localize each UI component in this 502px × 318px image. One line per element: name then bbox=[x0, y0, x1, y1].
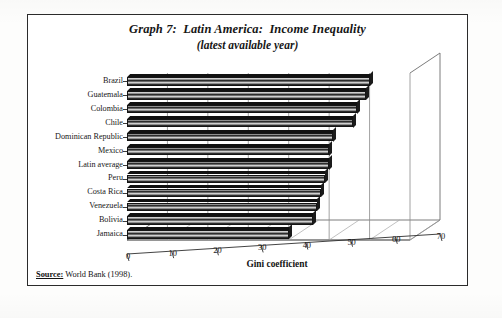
bar-guatemala bbox=[127, 88, 369, 100]
category-label-chile: Chile bbox=[31, 118, 123, 127]
category-label-brazil: Brazil bbox=[31, 76, 123, 85]
category-label-jamaica: Jamaica bbox=[31, 229, 123, 238]
category-tick bbox=[123, 137, 127, 138]
category-tick bbox=[123, 151, 127, 152]
bar-end-face bbox=[329, 154, 332, 169]
bar-body bbox=[127, 189, 321, 197]
bar-body bbox=[127, 105, 357, 113]
category-tick bbox=[123, 221, 127, 222]
category-tick bbox=[123, 179, 127, 180]
category-label-latin-average: Latin average bbox=[31, 160, 123, 169]
bar-end-face bbox=[333, 127, 336, 142]
category-label-colombia: Colombia bbox=[31, 104, 123, 113]
category-tick bbox=[123, 207, 127, 208]
bar-end-face bbox=[317, 196, 320, 211]
figure-frame: Graph 7: Latin America: Income Inequalit… bbox=[27, 14, 468, 286]
bar-body bbox=[127, 91, 366, 99]
x-tick-label-70: 70 bbox=[437, 232, 445, 241]
category-tick bbox=[123, 123, 127, 124]
category-tick bbox=[123, 235, 127, 236]
category-tick bbox=[123, 193, 127, 194]
bar-colombia bbox=[127, 102, 361, 114]
bar-body bbox=[127, 216, 313, 224]
bar-end-face bbox=[353, 113, 356, 128]
bar-body bbox=[127, 77, 370, 85]
x-tick-label-10: 10 bbox=[169, 249, 177, 258]
category-tick bbox=[123, 81, 127, 82]
x-tick-label-40: 40 bbox=[303, 241, 311, 250]
category-tick bbox=[123, 109, 127, 110]
bar-jamaica bbox=[127, 227, 292, 239]
x-tick-label-20: 20 bbox=[213, 246, 221, 255]
bar-costa-rica bbox=[127, 185, 324, 197]
bar-body bbox=[127, 147, 329, 155]
bar-end-face bbox=[357, 99, 360, 114]
category-label-guatemala: Guatemala bbox=[31, 90, 123, 99]
bar-latin-average bbox=[127, 158, 332, 170]
category-axis-labels: BrazilGuatemalaColombiaChileDominican Re… bbox=[31, 73, 123, 240]
bar-end-face bbox=[289, 224, 292, 239]
category-tick bbox=[123, 165, 127, 166]
bar-bolivia bbox=[127, 213, 316, 225]
bar-end-face bbox=[366, 85, 369, 100]
bar-body bbox=[127, 119, 353, 127]
bar-end-face bbox=[329, 140, 332, 155]
source-label: Source: bbox=[36, 270, 63, 279]
bar-dominican-republic bbox=[127, 130, 336, 142]
category-label-costa-rica: Costa Rica bbox=[31, 187, 123, 196]
source-note: Source: World Bank (1998). bbox=[36, 270, 132, 279]
chart-title-block: Graph 7: Latin America: Income Inequalit… bbox=[28, 22, 467, 51]
x-tick-label-60: 60 bbox=[392, 235, 400, 244]
category-tick bbox=[123, 95, 127, 96]
category-label-dominican-republic: Dominican Republic bbox=[31, 132, 123, 141]
bar-end-face bbox=[321, 182, 324, 197]
bar-body bbox=[127, 161, 329, 169]
x-axis-title: Gini coefficient bbox=[127, 259, 427, 269]
x-tick-label-30: 30 bbox=[258, 243, 266, 252]
chart-title: Graph 7: Latin America: Income Inequalit… bbox=[28, 22, 467, 37]
category-label-peru: Peru bbox=[31, 173, 123, 182]
bars-group bbox=[127, 73, 467, 240]
bar-body bbox=[127, 175, 325, 183]
bar-body bbox=[127, 230, 289, 238]
bar-body bbox=[127, 133, 333, 141]
category-label-bolivia: Bolivia bbox=[31, 215, 123, 224]
plot-area: BrazilGuatemalaColombiaChileDominican Re… bbox=[127, 73, 467, 255]
bar-chile bbox=[127, 116, 357, 128]
category-label-mexico: Mexico bbox=[31, 146, 123, 155]
bar-body bbox=[127, 203, 317, 211]
category-label-venezuela: Venezuela bbox=[31, 201, 123, 210]
chart-subtitle: (latest available year) bbox=[28, 39, 467, 51]
source-text: World Bank (1998). bbox=[63, 270, 132, 279]
bar-end-face bbox=[313, 210, 316, 225]
x-tick-label-50: 50 bbox=[347, 238, 355, 247]
bar-mexico bbox=[127, 144, 332, 156]
bar-venezuela bbox=[127, 199, 320, 211]
bar-end-face bbox=[325, 168, 328, 183]
bar-end-face bbox=[370, 71, 373, 86]
bar-brazil bbox=[127, 74, 373, 86]
bar-peru bbox=[127, 171, 328, 183]
